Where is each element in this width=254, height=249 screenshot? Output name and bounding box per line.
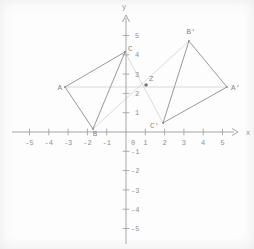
x-tick-label--4: -4	[45, 139, 53, 147]
y-tick-label--1: -1	[131, 148, 139, 156]
point-label-B: B	[93, 130, 98, 138]
x-axis-label: x	[246, 129, 250, 137]
figure-canvas: xy -5-4-3-2-1012345-5-4-3-2-112345 ABCZA…	[0, 0, 254, 249]
points: ABCZA'B'C'	[57, 28, 239, 139]
point-label-C': C'	[150, 122, 159, 130]
point-dot-A	[64, 86, 66, 88]
x-tick-label--1: -1	[102, 139, 110, 147]
y-tick-label-2: 2	[135, 90, 139, 98]
point-label-B': B'	[186, 28, 195, 36]
point-label-C: C	[128, 45, 133, 53]
x-tick-label-3: 3	[182, 139, 186, 147]
point-dot-B'	[188, 40, 190, 42]
y-tick-label-1: 1	[135, 109, 139, 117]
triangle-A'B'C'	[163, 41, 227, 123]
point-label-A: A	[57, 84, 62, 92]
y-tick-label--3: -3	[131, 187, 139, 195]
axis-ticks: -5-4-3-2-1012345-5-4-3-2-112345	[25, 32, 224, 233]
connector-B-B'	[93, 41, 189, 129]
x-tick-label-5: 5	[220, 139, 224, 147]
point-dot-A'	[226, 86, 228, 88]
point-dot-Z	[144, 83, 147, 86]
point-dot-C'	[162, 122, 164, 124]
x-tick-label--3: -3	[64, 139, 72, 147]
y-tick-label--4: -4	[131, 206, 139, 214]
triangle-ABC	[65, 52, 125, 129]
y-axis-label: y	[122, 3, 126, 11]
y-tick-label-3: 3	[135, 71, 139, 79]
point-label-A': A'	[231, 84, 240, 92]
y-tick-label-5: 5	[135, 32, 139, 40]
y-tick-label--2: -2	[131, 167, 139, 175]
x-tick-label--5: -5	[25, 139, 33, 147]
coordinate-plane: xy -5-4-3-2-1012345-5-4-3-2-112345 ABCZA…	[0, 0, 254, 249]
x-tick-label-2: 2	[162, 139, 166, 147]
x-tick-label--2: -2	[83, 139, 91, 147]
x-tick-label-0: 0	[131, 139, 135, 147]
y-tick-label--5: -5	[131, 225, 139, 233]
x-tick-label-4: 4	[201, 139, 205, 147]
point-dot-C	[124, 51, 126, 53]
x-tick-label-1: 1	[143, 139, 147, 147]
point-label-Z: Z	[149, 75, 154, 83]
y-tick-label-4: 4	[135, 51, 139, 59]
